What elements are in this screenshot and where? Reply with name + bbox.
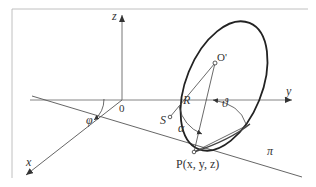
origin-label: 0 (119, 102, 125, 114)
plane-line (32, 96, 302, 177)
point-s-label: S (160, 113, 166, 127)
point-s (168, 115, 172, 119)
point-p (192, 150, 196, 154)
plane-label: π (267, 144, 274, 158)
angle-theta-label: ϑ (222, 96, 229, 110)
x-axis-label: x (25, 155, 32, 169)
y-axis-label: y (285, 84, 292, 98)
angle-phi-label: φ (86, 113, 93, 127)
frame (12, 9, 308, 178)
circle-center-label: O' (217, 51, 227, 63)
point-p-label: P(x, y, z) (176, 157, 219, 171)
z-axis-label: z (111, 9, 117, 23)
x-axis (26, 100, 122, 175)
angle-alpha-label: α (178, 121, 185, 135)
geometry-diagram: z y x 0 O' R S P(x, y, z) α ϑ φ π (0, 0, 316, 187)
radius-label: R (182, 93, 191, 107)
